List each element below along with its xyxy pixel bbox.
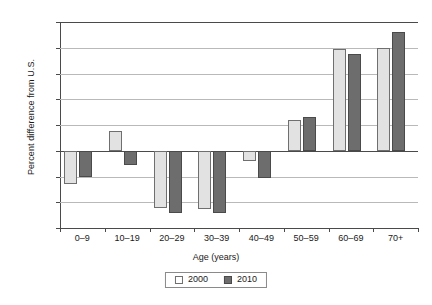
x-tick-mark — [105, 228, 106, 232]
bar-group — [284, 22, 329, 228]
bar-2000-70+ — [377, 48, 390, 151]
bar-group — [60, 22, 105, 228]
bar-2010-60–69 — [348, 54, 361, 151]
bar-2000-0–9 — [64, 151, 77, 184]
legend: 2000 2010 — [165, 272, 267, 288]
bar-2000-10–19 — [109, 131, 122, 151]
x-tick-label: 70+ — [366, 234, 426, 243]
bar-2000-40–49 — [243, 151, 256, 161]
bar-group — [329, 22, 374, 228]
x-tick-mark — [329, 228, 330, 232]
bar-group — [105, 22, 150, 228]
x-tick-mark — [239, 228, 240, 232]
legend-item-2000: 2000 — [175, 275, 208, 284]
x-tick-mark — [373, 228, 374, 232]
x-tick-mark — [60, 228, 61, 232]
x-axis-title: Age (years) — [0, 252, 432, 262]
bar-2000-50–59 — [288, 120, 301, 151]
legend-label-2000: 2000 — [188, 275, 208, 284]
bar-2010-20–29 — [169, 151, 182, 213]
bar-2010-50–59 — [303, 117, 316, 150]
chart-container: Percent difference from U.S. 2520151050−… — [0, 0, 432, 305]
bar-2010-40–49 — [258, 151, 271, 178]
x-tick-mark — [284, 228, 285, 232]
legend-item-2010: 2010 — [224, 275, 257, 284]
bar-2010-30–39 — [213, 151, 226, 213]
bar-group — [194, 22, 239, 228]
legend-swatch-2000 — [175, 276, 183, 284]
bar-2010-10–19 — [124, 151, 137, 165]
bar-2010-70+ — [392, 32, 405, 150]
bar-group — [373, 22, 418, 228]
bar-group — [239, 22, 284, 228]
bar-group — [150, 22, 195, 228]
y-axis-title: Percent difference from U.S. — [26, 22, 36, 212]
bar-2000-20–29 — [154, 151, 167, 209]
x-tick-mark — [150, 228, 151, 232]
x-tick-mark — [418, 228, 419, 232]
legend-swatch-2010 — [224, 276, 232, 284]
bar-2000-60–69 — [333, 49, 346, 151]
x-tick-mark — [194, 228, 195, 232]
legend-label-2010: 2010 — [237, 275, 257, 284]
bar-2000-30–39 — [198, 151, 211, 210]
bar-2010-0–9 — [79, 151, 92, 177]
plot-area — [60, 22, 418, 228]
